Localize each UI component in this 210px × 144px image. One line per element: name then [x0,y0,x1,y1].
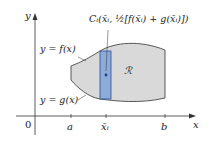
x-axis-arrow-icon [189,114,196,119]
tick-label-b: b [161,122,167,132]
upper-curve-label: y = f(x) [40,44,76,54]
y-axis-label: y [25,11,31,21]
origin-label: 0 [25,120,31,130]
region-label: ℛ [124,66,132,76]
tick-label-xi: x̄ᵢ [101,122,109,132]
f-leader-line [78,57,86,61]
y-axis-arrow-icon [33,13,38,20]
centroid-label: Cᵢ(x̄ᵢ, ½[f(x̄ᵢ) + g(x̄ᵢ)]) [89,14,188,24]
lower-curve-label: y = g(x) [40,95,78,105]
g-leader-line [78,95,86,100]
centroid-diagram: y x 0 a x̄ᵢ b y = f(x) y = g(x) ℛ Cᵢ(x̄ᵢ… [0,0,210,144]
tick-label-a: a [67,122,73,132]
x-axis-label: x [193,120,199,130]
region-shape [71,43,165,101]
centroid-point [105,74,108,77]
